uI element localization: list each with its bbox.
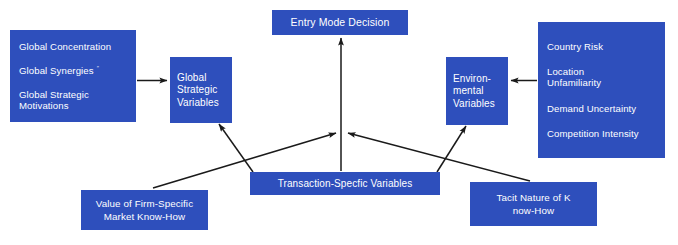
node-firm-specific-know-how: Value of Firm-Specific Market Know-How xyxy=(81,190,208,230)
global-strategic-variables-line-2: Strategic xyxy=(177,84,217,96)
arrow-transaction-to-global-strategic-variables xyxy=(219,124,253,172)
node-environmental-variables: Environ- mental Variables xyxy=(446,57,508,125)
global-strategic-variables-line-1: Global xyxy=(177,72,207,84)
environmental-drivers-line-2: Location xyxy=(547,66,584,77)
global-drivers-line-2-text: Global Synergies xyxy=(19,65,94,76)
diagram-canvas: Global Concentration Global Synergies″ G… xyxy=(0,0,678,245)
global-strategic-variables-line-3: Variables xyxy=(177,97,219,109)
node-tacit-nature: Tacit Nature of K now-How xyxy=(470,182,597,226)
environmental-drivers-line-3: Unfamiliarity xyxy=(547,77,601,88)
environmental-variables-line-1: Environ- xyxy=(453,73,491,85)
environmental-variables-line-3: Variables xyxy=(453,98,495,110)
firm-specific-know-how-line-2: Market Know-How xyxy=(104,211,186,222)
environmental-drivers-line-1: Country Risk xyxy=(547,41,603,52)
global-drivers-line-3-text: Global Strategic xyxy=(19,89,89,100)
entry-mode-decision-label: Entry Mode Decision xyxy=(291,16,390,28)
environmental-drivers-line-5: Competition Intensity xyxy=(547,128,639,139)
node-environmental-drivers: Country Risk Location Unfamiliarity Dema… xyxy=(538,22,665,158)
environmental-variables-line-2: mental xyxy=(453,85,484,97)
node-global-strategic-variables: Global Strategic Variables xyxy=(170,57,232,123)
transaction-specific-variables-label: Transaction-Specfic Variables xyxy=(278,178,413,190)
tacit-nature-line-1: Tacit Nature of K xyxy=(496,192,570,203)
global-drivers-line-4: Motivations xyxy=(19,100,69,111)
tacit-nature-line-2: now-How xyxy=(513,205,555,216)
environmental-drivers-line-4: Demand Uncertainty xyxy=(547,103,636,114)
arrow-transaction-to-environmental-variables xyxy=(437,126,466,172)
global-synergies-superscript-marker: ″ xyxy=(97,65,99,71)
firm-specific-know-how-line-1: Value of Firm-Specific xyxy=(96,198,193,209)
node-entry-mode-decision: Entry Mode Decision xyxy=(272,10,408,35)
global-drivers-line-2: Global Synergies″ xyxy=(19,65,99,76)
node-transaction-specific-variables: Transaction-Specfic Variables xyxy=(250,172,440,195)
global-drivers-line-3: Global Strategic xyxy=(19,89,89,100)
global-drivers-line-1: Global Concentration xyxy=(19,41,111,52)
node-global-drivers: Global Concentration Global Synergies″ G… xyxy=(10,30,136,122)
